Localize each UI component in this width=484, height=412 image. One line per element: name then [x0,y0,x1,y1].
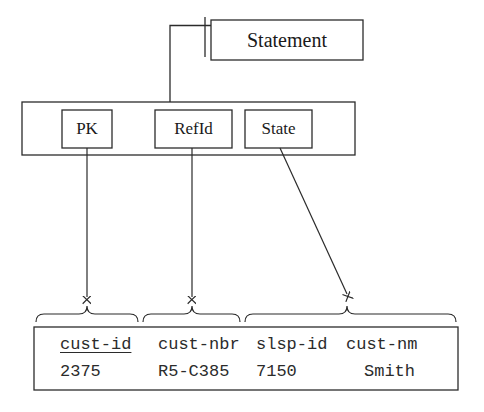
record-table: cust-id cust-nbr slsp-id cust-nm 2375 R5… [34,327,458,390]
brace-group-3 [245,306,456,322]
brace-group-2 [143,306,240,322]
column-header-cust-id: cust-id [60,331,131,359]
column-header-cust-nm: cust-nm [346,331,417,359]
record-value-row: 2375 R5-C385 7150 Smith [34,358,458,386]
column-header-slsp-id: slsp-id [256,331,327,359]
refid-label: RefId [155,110,232,148]
column-value-slsp-id: 7150 [256,358,297,386]
state-label: State [245,110,312,148]
state-connector-line [280,148,347,294]
column-header-cust-nbr: cust-nbr [158,331,240,359]
record-header-row: cust-id cust-nbr slsp-id cust-nm [34,331,458,359]
column-value-cust-id: 2375 [60,358,101,386]
brace-group-1 [36,306,138,322]
diagram-canvas: Statement PK RefId State cust-id cust-nb… [0,0,484,412]
column-value-cust-nm: Smith [364,358,415,386]
column-value-cust-nbr: R5-C385 [158,358,229,386]
statement-label: Statement [211,20,363,60]
pk-label: PK [62,110,112,148]
